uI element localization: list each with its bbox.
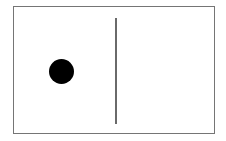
filled-dot-shape xyxy=(49,59,74,84)
rectangle-border xyxy=(13,6,215,134)
vertical-divider-line xyxy=(115,18,117,124)
shape-layer xyxy=(14,7,214,133)
diagram-canvas xyxy=(0,0,226,141)
